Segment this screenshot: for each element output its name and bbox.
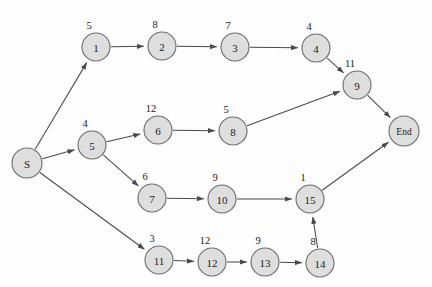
node-weight-6: 12 (146, 103, 157, 114)
node-15[interactable]: 15 (296, 185, 324, 213)
edge-8-to-9 (247, 91, 340, 125)
edge-11-to-12 (174, 261, 194, 262)
node-weight-11: 3 (149, 233, 154, 244)
network-diagram: S123456789101112131415End 58744126511931… (0, 0, 432, 287)
node-label-10: 10 (217, 194, 229, 206)
nodes-layer: S123456789101112131415End (12, 32, 419, 277)
node-label-End: End (396, 127, 412, 137)
node-label-3: 3 (232, 42, 238, 54)
edge-6-to-8 (173, 130, 215, 131)
node-label-7: 7 (149, 193, 155, 205)
node-2[interactable]: 2 (148, 32, 176, 60)
node-weight-15: 1 (300, 172, 305, 183)
node-14[interactable]: 14 (306, 249, 334, 277)
node-label-9: 9 (354, 80, 360, 92)
node-End[interactable]: End (389, 116, 419, 146)
edge-5-to-6 (107, 134, 141, 142)
node-weight-12: 12 (200, 235, 211, 246)
node-label-14: 14 (315, 258, 327, 270)
node-8[interactable]: 8 (219, 117, 247, 145)
node-label-4: 4 (313, 43, 319, 55)
edge-4-to-9 (327, 58, 343, 73)
node-weight-13: 9 (255, 235, 260, 246)
node-label-12: 12 (207, 257, 218, 269)
node-4[interactable]: 4 (302, 34, 330, 62)
node-label-6: 6 (155, 125, 161, 137)
node-weight-7: 6 (142, 171, 147, 182)
edge-2-to-3 (177, 46, 217, 47)
node-11[interactable]: 11 (145, 246, 173, 274)
edge-9-to-End (368, 95, 391, 117)
node-weight-14: 8 (310, 236, 315, 247)
node-label-2: 2 (159, 41, 165, 53)
node-6[interactable]: 6 (144, 116, 172, 144)
node-weight-3: 7 (225, 20, 230, 31)
node-weight-2: 8 (152, 19, 157, 30)
node-1[interactable]: 1 (82, 33, 110, 61)
edge-15-to-End (322, 142, 388, 190)
node-9[interactable]: 9 (343, 71, 371, 99)
node-label-1: 1 (93, 42, 99, 54)
node-weight-5: 4 (82, 118, 88, 129)
node-label-11: 11 (154, 255, 165, 267)
edge-5-to-7 (103, 155, 138, 186)
node-label-15: 15 (305, 194, 317, 206)
node-label-8: 8 (230, 126, 236, 138)
node-label-S: S (24, 158, 30, 170)
edge-S-to-1 (35, 63, 87, 150)
edge-S-to-5 (42, 150, 74, 159)
node-label-13: 13 (260, 257, 272, 269)
edge-7-to-10 (167, 198, 204, 199)
node-weight-4: 4 (306, 21, 312, 32)
node-7[interactable]: 7 (138, 184, 166, 212)
network-diagram-canvas: S123456789101112131415End 58744126511931… (0, 0, 432, 287)
node-label-5: 5 (89, 140, 95, 152)
edge-S-to-11 (40, 172, 144, 249)
node-12[interactable]: 12 (198, 248, 226, 276)
node-weight-9: 11 (345, 58, 355, 69)
node-weight-1: 5 (86, 20, 91, 31)
node-5[interactable]: 5 (78, 131, 106, 159)
node-3[interactable]: 3 (221, 33, 249, 61)
node-S[interactable]: S (12, 148, 42, 178)
edge-3-to-4 (250, 47, 298, 48)
node-10[interactable]: 10 (208, 185, 236, 213)
node-weight-10: 9 (212, 172, 217, 183)
node-13[interactable]: 13 (251, 248, 279, 276)
node-weight-8: 5 (223, 104, 228, 115)
